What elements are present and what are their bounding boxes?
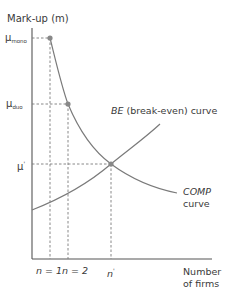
y-axis-title: Mark-up (m) — [7, 13, 69, 24]
prime-superscript: ' — [23, 160, 25, 167]
guide-mono — [32, 38, 50, 259]
point-mono — [47, 35, 52, 40]
x-axis-title-line1: Number — [183, 266, 221, 277]
y-tick-duo: μduo — [6, 98, 23, 113]
y-tick-prime: μ' — [17, 158, 25, 172]
guide-duo — [32, 104, 68, 259]
x-tick-n2: n = 2 — [62, 265, 88, 276]
n2-label: n = 2 — [62, 265, 88, 276]
x-tick-nprime: n' — [107, 265, 115, 279]
point-equilibrium — [108, 161, 113, 166]
comp-curve — [32, 124, 160, 210]
nprime-sup: ' — [113, 267, 115, 274]
x-axis-title-line2: of firms — [183, 278, 219, 289]
be-curve-label: BE (break-even) curve — [111, 105, 217, 116]
guide-equilibrium — [32, 164, 111, 259]
y-tick-mono: μmono — [5, 32, 27, 47]
comp-curve-label-line1: COMP — [183, 186, 211, 197]
comp-curve-label-line2: curve — [183, 198, 210, 209]
be-rest: (break-even) curve — [124, 105, 218, 116]
point-duo — [65, 101, 70, 106]
duo-subscript: duo — [12, 104, 22, 110]
chart-canvas — [0, 0, 228, 294]
x-tick-n1: n = 1 — [36, 265, 62, 276]
be-italic: BE — [111, 105, 124, 116]
mono-subscript: mono — [11, 38, 27, 44]
n1-label: n = 1 — [36, 265, 62, 276]
